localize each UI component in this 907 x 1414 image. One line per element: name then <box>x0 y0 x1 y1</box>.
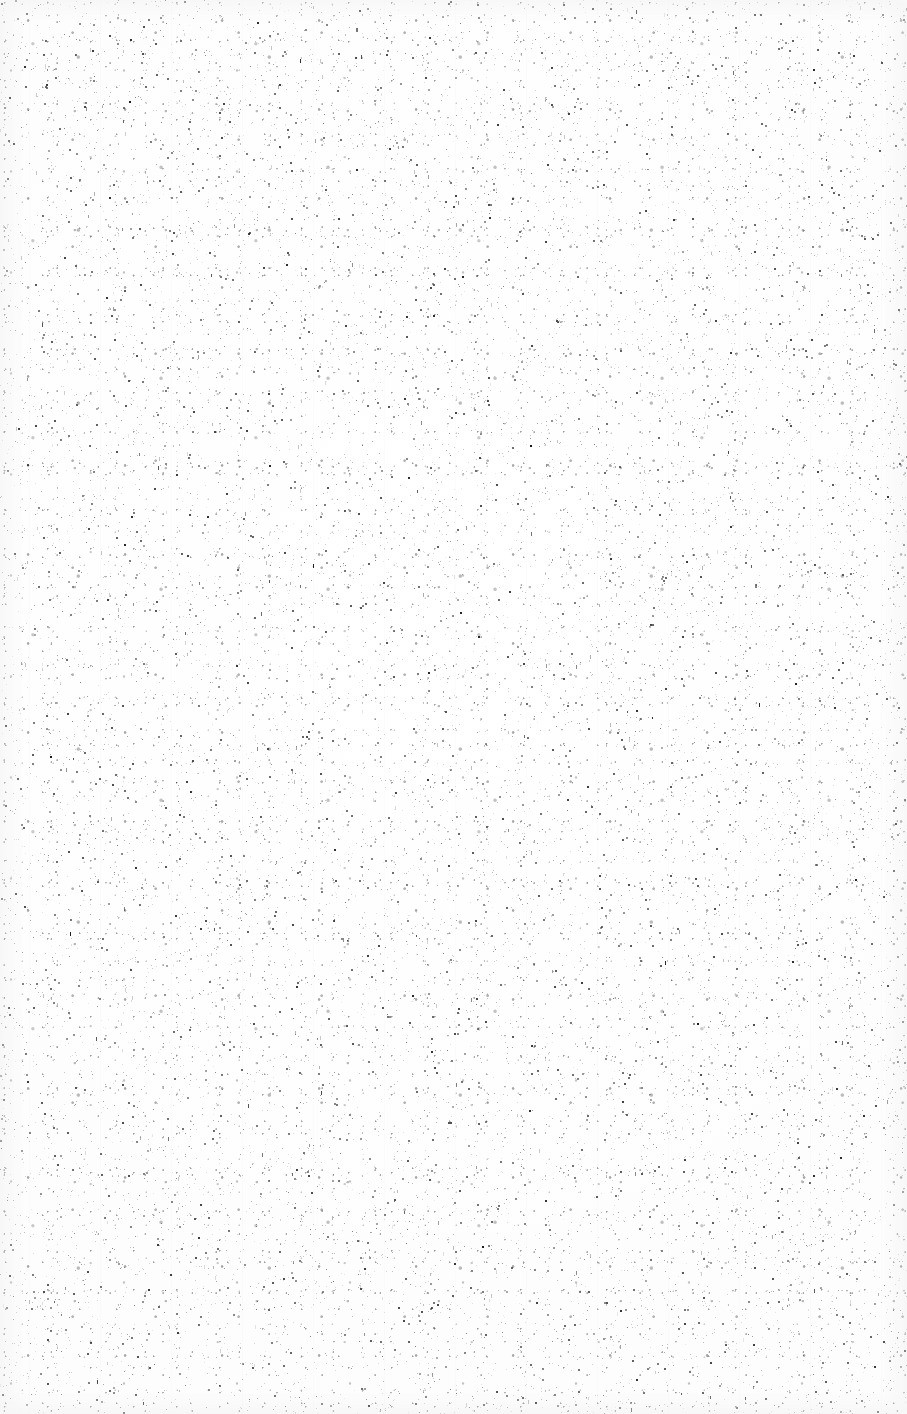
scanned-page <box>0 0 907 1414</box>
page-content-area <box>0 0 907 1414</box>
